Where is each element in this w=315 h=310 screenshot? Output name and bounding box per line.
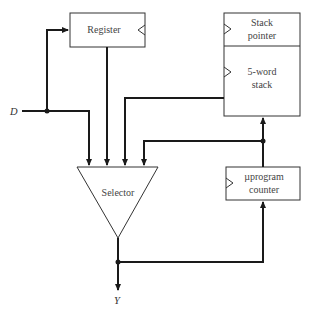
junction-d [45,109,50,114]
input-d-label: D [9,106,18,117]
junction-y [116,260,121,265]
wire-upc-to-selector [144,141,263,167]
register-label: Register [87,24,121,35]
stack-label-1: 5-word [248,66,277,77]
wire-stack-to-selector [125,98,224,165]
stack-label-2: stack [252,79,273,90]
upc-block: µprogram counter [226,167,300,200]
upc-label-2: counter [249,184,280,195]
stack-pointer-label-2: pointer [248,30,277,41]
stack-block: Stack pointer 5-word stack [224,13,300,116]
register-block: Register [70,13,145,47]
sequencer-diagram: Register Stack pointer 5-word stack µpro… [0,0,315,310]
wire-d-to-register [47,30,68,111]
stack-pointer-label-1: Stack [251,17,273,28]
wire-selector-to-upc [118,202,263,262]
wire-d-to-selector [22,111,89,165]
upc-label-1: µprogram [244,171,284,182]
selector-block: Selector [77,167,158,238]
output-y-label: Y [114,295,121,306]
selector-label: Selector [102,187,135,198]
junction-upc [261,139,266,144]
